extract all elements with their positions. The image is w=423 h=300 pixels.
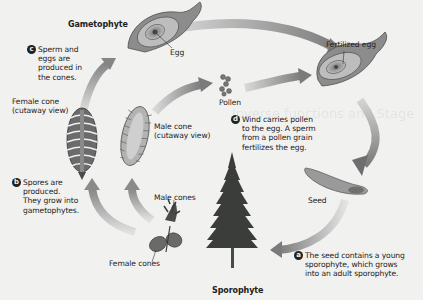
label-line: (cutaway view): [12, 106, 68, 115]
step-line: from a pollen grain: [242, 133, 316, 142]
step-line: the cones.: [38, 73, 82, 82]
step-line: Wind carries pollen: [242, 115, 316, 124]
step-line: They grow into: [23, 196, 79, 205]
label-male-cones: Male cones: [154, 193, 196, 202]
step-line: produced.: [23, 187, 79, 196]
label-female-cone-cutaway: Female cone (cutaway view): [12, 97, 68, 115]
male-cone-cutaway-illustration: [116, 104, 154, 168]
step-line: The seed contains a young: [305, 251, 405, 260]
sporophyte-tree-illustration: [206, 152, 258, 268]
label-gametophyte: Gametophyte: [68, 20, 128, 29]
step-line: eggs are: [38, 54, 82, 63]
step-marker-d: d: [231, 115, 240, 124]
step-line: produced in: [38, 63, 82, 72]
step-line: into an adult sporophyte.: [305, 269, 405, 278]
pollen-grains-illustration: [220, 75, 232, 97]
arrow-male-cone-to-pollen: [155, 77, 213, 112]
branch-with-cones-illustration: [147, 199, 184, 262]
step-marker-a: a: [294, 251, 303, 260]
arrow-pollen-to-fertilized-egg: [245, 68, 312, 88]
label-egg: Egg: [170, 48, 184, 57]
step-c-description: c Sperm and eggs are produced in the con…: [38, 45, 82, 82]
arrow-fertilized-egg-to-seed: [352, 100, 376, 176]
label-fertilized-egg: Fertilized egg: [326, 40, 376, 49]
step-line: gametophytes.: [23, 206, 79, 215]
label-seed: Seed: [308, 196, 327, 205]
step-marker-b: b: [12, 178, 21, 187]
label-line: Female cone: [12, 97, 68, 106]
seed-illustration: [305, 168, 368, 194]
step-b-description: b Spores are produced. They grow into ga…: [23, 178, 79, 215]
label-line: (cutaway view): [154, 131, 210, 140]
female-cone-cutaway-illustration: [67, 108, 97, 180]
conifer-life-cycle-diagram: Inverse functions and Stage: [0, 0, 423, 300]
step-line: sporophyte, which grows: [305, 260, 405, 269]
arrow-female-cone-to-gametophyte: [83, 58, 116, 112]
step-d-description: d Wind carries pollen to the egg. A sper…: [242, 115, 316, 152]
step-line: Spores are: [23, 178, 79, 187]
step-line: Sperm and: [38, 45, 82, 54]
step-marker-c: c: [27, 45, 36, 54]
label-male-cone-cutaway: Male cone (cutaway view): [154, 122, 210, 140]
label-sporophyte: Sporophyte: [212, 286, 263, 295]
arrow-cones-to-male-cone: [124, 178, 152, 220]
label-line: Male cone: [154, 122, 210, 131]
step-line: to the egg. A sperm: [242, 124, 316, 133]
label-pollen: Pollen: [219, 98, 241, 107]
step-line: fertilizes the egg.: [242, 143, 316, 152]
arrow-gametophyte-to-fertilized-egg: [168, 24, 348, 58]
step-a-description: a The seed contains a young sporophyte, …: [305, 251, 405, 279]
arrow-seed-to-sporophyte: [270, 200, 345, 258]
label-female-cones: Female cones: [109, 259, 160, 268]
